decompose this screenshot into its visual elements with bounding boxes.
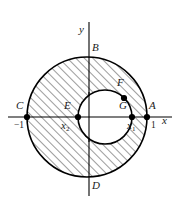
point-E-marker [75, 114, 81, 120]
point-label-F: F [117, 77, 124, 88]
x-value-negative-one: −1 [14, 120, 24, 131]
point-A-marker [144, 114, 150, 120]
y-axis-label: y [79, 24, 84, 35]
point-label-E: E [64, 100, 71, 111]
x-value-one: 1 [151, 120, 156, 131]
point-label-D: D [92, 180, 100, 191]
x-sub-one-index: 1 [132, 125, 136, 133]
point-label-B: B [92, 42, 99, 53]
figure-container: A B C D E F G −1 1 x1 x2 x y [0, 0, 178, 214]
point-C-marker [24, 114, 30, 120]
x-axis-label: x [162, 115, 167, 126]
point-label-A: A [149, 100, 156, 111]
point-label-G: G [119, 100, 127, 111]
x-sub-two-index: 2 [66, 125, 70, 133]
point-label-C: C [16, 100, 23, 111]
x-sub-two-label: x2 [61, 120, 69, 133]
x-sub-one-label: x1 [127, 120, 135, 133]
